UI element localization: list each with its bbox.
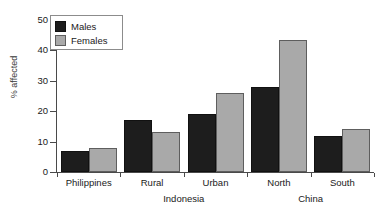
bar-group (251, 20, 307, 172)
y-tick-label: 40 (24, 45, 48, 54)
legend-label-females: Females (71, 35, 107, 46)
females-swatch-icon (55, 35, 66, 46)
bar-group (314, 20, 370, 172)
males-swatch-icon (55, 21, 66, 32)
y-tick-label: 30 (24, 76, 48, 85)
legend-item-females: Females (55, 33, 122, 47)
y-tick-label: 50 (24, 15, 48, 24)
bar-males-rural (124, 120, 152, 172)
legend: Males Females (50, 15, 123, 50)
region-label-china: China (247, 193, 374, 204)
y-tick-label: 10 (24, 137, 48, 146)
legend-label-males: Males (71, 21, 96, 32)
x-tick (374, 173, 375, 177)
bar-males-urban (188, 114, 216, 172)
category-label-rural: Rural (120, 177, 183, 188)
y-tick (50, 142, 56, 143)
y-tick (50, 81, 56, 82)
x-axis-line (56, 172, 374, 173)
y-tick-label: 20 (24, 106, 48, 115)
bar-males-north (251, 87, 279, 172)
bar-females-south (342, 129, 370, 172)
bar-chart: % affected 50403020100 PhilippinesRuralU… (0, 0, 388, 217)
legend-item-males: Males (55, 19, 122, 33)
y-tick (50, 111, 56, 112)
bar-females-philippines (89, 148, 117, 172)
y-tick (50, 50, 56, 51)
bar-females-north (279, 40, 307, 172)
category-label-urban: Urban (184, 177, 247, 188)
bar-females-rural (152, 132, 180, 172)
y-tick-label: 0 (24, 167, 48, 176)
region-label-indonesia: Indonesia (120, 193, 247, 204)
bar-males-philippines (61, 151, 89, 172)
category-label-north: North (247, 177, 310, 188)
y-tick (50, 172, 56, 173)
bar-males-south (314, 136, 342, 172)
bar-group (124, 20, 180, 172)
category-label-philippines: Philippines (57, 177, 120, 188)
bar-females-urban (216, 93, 244, 172)
bar-group (188, 20, 244, 172)
y-axis-title: % affected (9, 42, 19, 112)
category-label-south: South (311, 177, 374, 188)
